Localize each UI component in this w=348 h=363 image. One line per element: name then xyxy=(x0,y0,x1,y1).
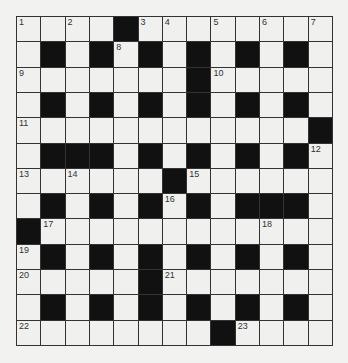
crossword-cell[interactable] xyxy=(139,68,162,92)
crossword-cell[interactable] xyxy=(236,17,259,41)
crossword-cell[interactable] xyxy=(114,93,137,117)
crossword-cell[interactable]: 22 xyxy=(17,321,40,345)
crossword-cell[interactable] xyxy=(90,118,113,142)
crossword-cell[interactable] xyxy=(236,270,259,294)
crossword-cell[interactable] xyxy=(66,245,89,269)
crossword-cell[interactable] xyxy=(284,219,307,243)
crossword-cell[interactable]: 21 xyxy=(163,270,186,294)
crossword-cell[interactable]: 15 xyxy=(187,169,210,193)
crossword-cell[interactable] xyxy=(187,219,210,243)
crossword-cell[interactable] xyxy=(163,68,186,92)
crossword-cell[interactable] xyxy=(309,42,332,66)
crossword-cell[interactable] xyxy=(284,118,307,142)
crossword-cell[interactable] xyxy=(260,42,283,66)
crossword-cell[interactable]: 4 xyxy=(163,17,186,41)
crossword-cell[interactable]: 10 xyxy=(211,68,234,92)
crossword-cell[interactable]: 13 xyxy=(17,169,40,193)
crossword-cell[interactable] xyxy=(236,169,259,193)
crossword-cell[interactable] xyxy=(114,321,137,345)
crossword-cell[interactable] xyxy=(114,194,137,218)
crossword-cell[interactable] xyxy=(66,93,89,117)
crossword-cell[interactable] xyxy=(66,118,89,142)
crossword-cell[interactable] xyxy=(211,194,234,218)
crossword-cell[interactable] xyxy=(90,321,113,345)
crossword-cell[interactable] xyxy=(139,219,162,243)
crossword-cell[interactable] xyxy=(114,270,137,294)
crossword-cell[interactable]: 3 xyxy=(139,17,162,41)
crossword-cell[interactable] xyxy=(17,295,40,319)
crossword-cell[interactable] xyxy=(309,68,332,92)
crossword-cell[interactable] xyxy=(236,68,259,92)
crossword-cell[interactable] xyxy=(41,118,64,142)
crossword-cell[interactable] xyxy=(17,42,40,66)
crossword-cell[interactable] xyxy=(114,219,137,243)
crossword-cell[interactable] xyxy=(187,270,210,294)
crossword-cell[interactable] xyxy=(163,295,186,319)
crossword-cell[interactable]: 18 xyxy=(260,219,283,243)
crossword-cell[interactable] xyxy=(114,144,137,168)
crossword-cell[interactable]: 16 xyxy=(163,194,186,218)
crossword-cell[interactable]: 12 xyxy=(309,144,332,168)
crossword-cell[interactable] xyxy=(114,245,137,269)
crossword-cell[interactable] xyxy=(66,68,89,92)
crossword-cell[interactable] xyxy=(309,219,332,243)
crossword-cell[interactable] xyxy=(163,93,186,117)
crossword-cell[interactable]: 6 xyxy=(260,17,283,41)
crossword-cell[interactable] xyxy=(309,295,332,319)
crossword-cell[interactable] xyxy=(309,270,332,294)
crossword-cell[interactable] xyxy=(309,194,332,218)
crossword-cell[interactable] xyxy=(17,144,40,168)
crossword-cell[interactable]: 1 xyxy=(17,17,40,41)
crossword-cell[interactable] xyxy=(211,118,234,142)
crossword-cell[interactable] xyxy=(187,118,210,142)
crossword-cell[interactable] xyxy=(309,93,332,117)
crossword-cell[interactable] xyxy=(260,295,283,319)
crossword-cell[interactable] xyxy=(90,169,113,193)
crossword-cell[interactable] xyxy=(17,93,40,117)
crossword-cell[interactable]: 14 xyxy=(66,169,89,193)
crossword-cell[interactable] xyxy=(163,118,186,142)
crossword-cell[interactable] xyxy=(260,321,283,345)
crossword-cell[interactable] xyxy=(211,295,234,319)
crossword-cell[interactable]: 23 xyxy=(236,321,259,345)
crossword-cell[interactable] xyxy=(17,194,40,218)
crossword-cell[interactable] xyxy=(41,17,64,41)
crossword-cell[interactable] xyxy=(211,219,234,243)
crossword-cell[interactable] xyxy=(284,169,307,193)
crossword-cell[interactable]: 9 xyxy=(17,68,40,92)
crossword-cell[interactable] xyxy=(163,245,186,269)
crossword-cell[interactable] xyxy=(66,270,89,294)
crossword-cell[interactable] xyxy=(163,321,186,345)
crossword-cell[interactable] xyxy=(260,270,283,294)
crossword-cell[interactable] xyxy=(284,321,307,345)
crossword-cell[interactable] xyxy=(163,42,186,66)
crossword-cell[interactable] xyxy=(66,42,89,66)
crossword-cell[interactable] xyxy=(66,219,89,243)
crossword-cell[interactable] xyxy=(260,68,283,92)
crossword-cell[interactable]: 5 xyxy=(211,17,234,41)
crossword-cell[interactable] xyxy=(260,118,283,142)
crossword-cell[interactable] xyxy=(211,42,234,66)
crossword-cell[interactable] xyxy=(139,118,162,142)
crossword-cell[interactable] xyxy=(211,144,234,168)
crossword-cell[interactable] xyxy=(260,245,283,269)
crossword-cell[interactable] xyxy=(41,169,64,193)
crossword-cell[interactable] xyxy=(114,295,137,319)
crossword-cell[interactable] xyxy=(309,245,332,269)
crossword-cell[interactable] xyxy=(114,68,137,92)
crossword-cell[interactable] xyxy=(114,169,137,193)
crossword-cell[interactable] xyxy=(211,245,234,269)
crossword-cell[interactable] xyxy=(66,295,89,319)
crossword-cell[interactable]: 7 xyxy=(309,17,332,41)
crossword-cell[interactable] xyxy=(66,194,89,218)
crossword-cell[interactable] xyxy=(114,118,137,142)
crossword-cell[interactable]: 8 xyxy=(114,42,137,66)
crossword-cell[interactable]: 20 xyxy=(17,270,40,294)
crossword-cell[interactable] xyxy=(211,169,234,193)
crossword-cell[interactable] xyxy=(90,17,113,41)
crossword-cell[interactable] xyxy=(139,169,162,193)
crossword-cell[interactable] xyxy=(90,270,113,294)
crossword-cell[interactable] xyxy=(187,321,210,345)
crossword-cell[interactable] xyxy=(260,169,283,193)
crossword-cell[interactable] xyxy=(211,93,234,117)
